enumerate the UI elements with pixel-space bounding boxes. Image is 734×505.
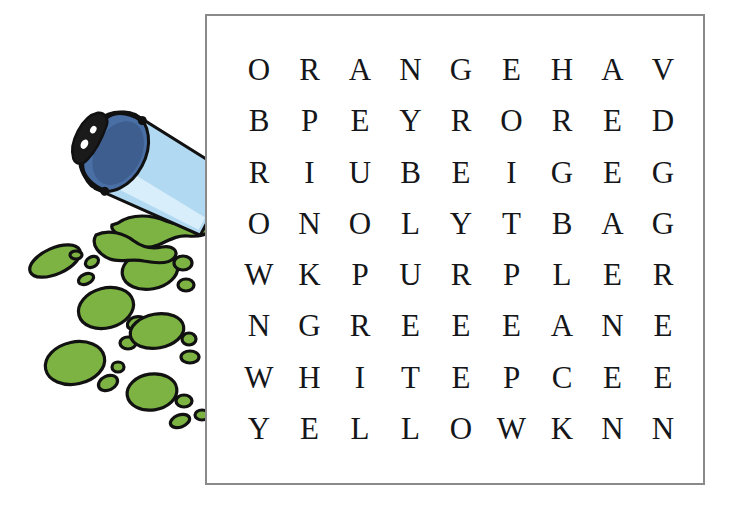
grid-cell[interactable]: E xyxy=(641,356,685,400)
grid-cell[interactable]: W xyxy=(237,356,281,400)
grid-cell[interactable]: O xyxy=(490,99,534,143)
grid-cell[interactable]: V xyxy=(641,48,685,92)
grid-cell[interactable]: E xyxy=(591,99,635,143)
grid-cell[interactable]: A xyxy=(540,304,584,348)
grid-cell[interactable]: R xyxy=(439,253,483,297)
grid-cell[interactable]: T xyxy=(490,202,534,246)
paint-blob xyxy=(25,238,85,284)
grid-cell[interactable]: B xyxy=(540,202,584,246)
handle-knob xyxy=(99,185,111,197)
paint-blob xyxy=(182,333,196,345)
grid-cell[interactable]: P xyxy=(490,253,534,297)
paint-blob xyxy=(74,281,138,334)
grid-cell[interactable]: K xyxy=(288,253,332,297)
grid-row: O N O L Y T B A G xyxy=(237,200,685,248)
paint-blob xyxy=(70,251,82,259)
paint-bucket-illustration xyxy=(0,95,240,435)
paint-blob xyxy=(96,372,120,393)
grip-highlight xyxy=(89,125,98,135)
grid-cell[interactable]: R xyxy=(540,99,584,143)
paint-blob xyxy=(127,310,186,353)
bucket-opening-shadow xyxy=(82,112,155,194)
grid-cell[interactable]: H xyxy=(540,48,584,92)
paint-blob xyxy=(119,246,181,293)
grid-cell[interactable]: R xyxy=(237,151,281,195)
grip-highlight xyxy=(79,138,90,150)
grid-cell[interactable]: H xyxy=(288,356,332,400)
grid-cell[interactable]: P xyxy=(490,356,534,400)
paint-pool xyxy=(94,232,176,263)
grid-cell[interactable]: K xyxy=(540,407,584,451)
grid-cell[interactable]: E xyxy=(288,407,332,451)
grid-cell[interactable]: Y xyxy=(439,202,483,246)
grid-cell[interactable]: O xyxy=(237,48,281,92)
word-search-page: O R A N G E H A V B P E Y R O R E D xyxy=(0,0,734,505)
grid-cell[interactable]: A xyxy=(591,48,635,92)
grid-cell[interactable]: I xyxy=(338,356,382,400)
grid-cell[interactable]: T xyxy=(389,356,433,400)
grid-cell[interactable]: D xyxy=(641,99,685,143)
grid-cell[interactable]: N xyxy=(591,407,635,451)
grid-cell[interactable]: O xyxy=(439,407,483,451)
grid-cell[interactable]: L xyxy=(338,407,382,451)
grid-cell[interactable]: G xyxy=(439,48,483,92)
paint-blob xyxy=(120,337,136,349)
grid-cell[interactable]: U xyxy=(338,151,382,195)
paint-blob xyxy=(112,362,124,372)
grid-cell[interactable]: E xyxy=(439,151,483,195)
grid-cell[interactable]: I xyxy=(490,151,534,195)
bucket-handle xyxy=(67,100,142,191)
grid-cell[interactable]: E xyxy=(439,304,483,348)
grid-cell[interactable]: W xyxy=(237,253,281,297)
grid-cell[interactable]: E xyxy=(591,253,635,297)
paint-blob xyxy=(178,279,194,291)
grid-cell[interactable]: N xyxy=(288,202,332,246)
grid-cell[interactable]: G xyxy=(540,151,584,195)
grid-cell[interactable]: P xyxy=(338,253,382,297)
grid-cell[interactable]: R xyxy=(338,304,382,348)
grid-cell[interactable]: E xyxy=(389,304,433,348)
grid-cell[interactable]: L xyxy=(389,202,433,246)
grid-cell[interactable]: L xyxy=(540,253,584,297)
paint-blob xyxy=(83,254,100,270)
grid-cell[interactable]: I xyxy=(288,151,332,195)
grid-cell[interactable]: B xyxy=(237,99,281,143)
grid-cell[interactable]: Y xyxy=(237,407,281,451)
grid-cell[interactable]: N xyxy=(237,304,281,348)
grid-cell[interactable]: P xyxy=(288,99,332,143)
grid-cell[interactable]: C xyxy=(540,356,584,400)
grid-cell[interactable]: E xyxy=(490,48,534,92)
grid-cell[interactable]: E xyxy=(439,356,483,400)
grid-cell[interactable]: E xyxy=(591,356,635,400)
bucket-opening xyxy=(69,101,161,203)
paint-blob xyxy=(139,336,153,346)
grid-cell[interactable]: R xyxy=(288,48,332,92)
bucket-highlight xyxy=(106,163,208,231)
grid-cell[interactable]: A xyxy=(591,202,635,246)
grid-cell[interactable]: N xyxy=(591,304,635,348)
grid-cell[interactable]: G xyxy=(641,151,685,195)
grid-cell[interactable]: R xyxy=(641,253,685,297)
paint-blob xyxy=(176,395,192,407)
grid-cell[interactable]: G xyxy=(641,202,685,246)
grid-cell[interactable]: U xyxy=(389,253,433,297)
grid-cell[interactable]: N xyxy=(641,407,685,451)
grid-cell[interactable]: E xyxy=(490,304,534,348)
grid-cell[interactable]: E xyxy=(591,151,635,195)
grid-row: W K P U R P L E R xyxy=(237,251,685,299)
grid-cell[interactable]: R xyxy=(439,99,483,143)
grid-cell[interactable]: W xyxy=(490,407,534,451)
grid-cell[interactable]: O xyxy=(338,202,382,246)
paint-blob xyxy=(181,351,199,363)
grid-cell[interactable]: N xyxy=(389,48,433,92)
grid-cell[interactable]: G xyxy=(288,304,332,348)
grid-cell[interactable]: E xyxy=(338,99,382,143)
grid-cell[interactable]: L xyxy=(389,407,433,451)
grid-cell[interactable]: E xyxy=(641,304,685,348)
grid-cell[interactable]: B xyxy=(389,151,433,195)
grid-cell[interactable]: Y xyxy=(389,99,433,143)
grid-cell[interactable]: A xyxy=(338,48,382,92)
paint-blob xyxy=(174,256,192,270)
paint-blob xyxy=(41,336,108,390)
grid-cell[interactable]: O xyxy=(237,202,281,246)
